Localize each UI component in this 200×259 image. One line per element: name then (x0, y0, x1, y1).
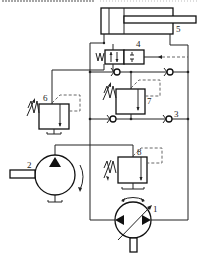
label-3: 3 (174, 109, 179, 119)
cylinder-5: 5 (101, 8, 196, 34)
label-6: 6 (43, 93, 48, 103)
relief-valve-6: 6 (27, 93, 80, 134)
relief-valve-7: 7 (103, 72, 160, 119)
circuit-canvas: 5 4 (0, 0, 200, 259)
label-8: 8 (137, 147, 142, 157)
label-1: 1 (153, 204, 158, 214)
pump-2: 2 (10, 155, 83, 202)
variable-pump-motor-1: 1 (90, 198, 188, 253)
directional-valve-4: 4 (96, 39, 188, 64)
hydraulic-circuit-diagram: 5 4 (0, 0, 200, 259)
label-2: 2 (27, 160, 32, 170)
label-5: 5 (176, 24, 181, 34)
label-4: 4 (136, 39, 141, 49)
label-7: 7 (147, 96, 152, 106)
